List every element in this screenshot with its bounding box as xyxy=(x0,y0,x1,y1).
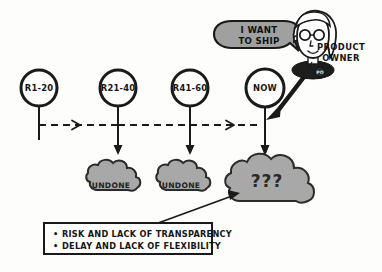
timeline-node-2-label: R21-40 xyxy=(101,83,135,93)
timeline-axis xyxy=(39,121,262,130)
timeline-node-3-label: R41-60 xyxy=(173,83,207,93)
product-owner-role-line-1: PRODUCT xyxy=(317,42,365,52)
diagram-svg: R1-20 R21-40 R41-60 NOW UNDONE UNDONE ??… xyxy=(0,0,382,272)
undone-cloud-1-label: UNDONE xyxy=(92,181,131,190)
unknown-cloud-label: ??? xyxy=(251,171,284,191)
callout-bullet-glyph-2: • xyxy=(53,241,58,251)
timeline-node-1[interactable] xyxy=(21,70,57,140)
po-badge-label: PO xyxy=(316,70,324,75)
callout-bullet-2: DELAY AND LACK OF FLEXIBILITY xyxy=(62,241,222,251)
speech-bubble-line-1: I WANT xyxy=(241,25,278,35)
timeline-node-4-label: NOW xyxy=(253,83,277,93)
callout-leader-arrow xyxy=(150,190,240,226)
timeline-node-1-label: R1-20 xyxy=(25,83,53,93)
diagram-canvas: R1-20 R21-40 R41-60 NOW UNDONE UNDONE ??… xyxy=(0,0,382,272)
callout-bullet-glyph-1: • xyxy=(53,229,58,239)
callout-bullet-1: RISK AND LACK OF TRANSPARENCY xyxy=(62,229,233,239)
speech-bubble-line-2: TO SHIP xyxy=(238,36,279,46)
undone-cloud-2-label: UNDONE xyxy=(162,181,201,190)
product-owner-role-line-2: OWNER xyxy=(322,53,360,63)
